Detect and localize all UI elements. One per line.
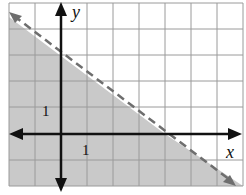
y-tick-label: 1 xyxy=(42,103,50,119)
x-axis-arrow-right-icon xyxy=(228,128,242,140)
y-axis-arrow-up-icon xyxy=(55,2,67,16)
y-axis-label: y xyxy=(70,2,80,22)
x-axis-label: x xyxy=(225,142,234,162)
graph: y x 1 1 xyxy=(0,0,246,195)
x-tick-label: 1 xyxy=(82,142,90,158)
